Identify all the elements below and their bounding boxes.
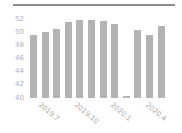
bar-2020.1 [111,24,118,98]
y-tick-50: 50 [0,28,24,36]
bar-2020.5 [158,26,165,98]
bar-2020.2 [123,96,130,98]
y-tick-48: 48 [0,41,24,49]
y-tick-40: 40 [0,94,24,102]
bar-2019.7 [42,32,49,98]
bar-2019.6 [30,35,37,98]
bar-2020.4 [146,35,153,98]
y-tick-52: 52 [0,15,24,23]
bar-2019.10 [76,20,83,98]
y-tick-42: 42 [0,80,24,88]
bar-2019.8 [53,29,60,98]
x-tick-2020-1: 2020.1 [109,101,133,123]
bar-chart: 52 50 48 46 44 42 40 2019.7 2019.10 2020… [0,0,182,133]
y-tick-44: 44 [0,67,24,75]
x-tick-2019-10: 2019.10 [73,101,100,126]
x-tick-2019-7: 2019.7 [37,101,61,123]
y-tick-46: 46 [0,54,24,62]
bar-2020.3 [134,30,141,98]
bar-2019.9 [65,22,72,98]
bar-2019.12 [100,21,107,98]
bar-2019.11 [88,20,95,98]
x-tick-2020-4: 2020.4 [144,101,168,123]
